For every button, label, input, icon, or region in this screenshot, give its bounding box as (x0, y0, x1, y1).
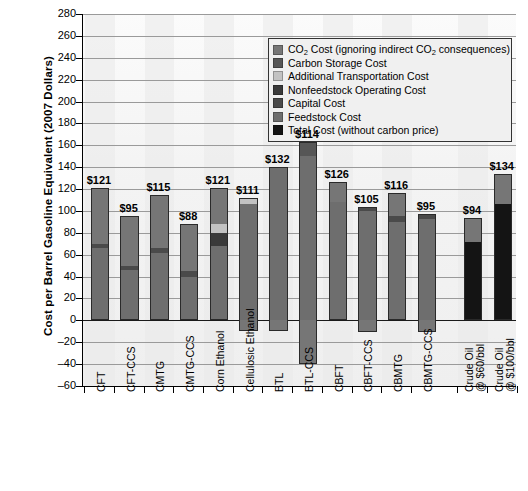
x-tick-label: CBMTG (392, 354, 404, 392)
bar-segment (358, 211, 376, 320)
x-tick-label: BTL-CCS (303, 347, 315, 392)
legend-item[interactable]: Nonfeedstock Operating Cost (273, 83, 506, 96)
x-tick-mark (411, 386, 412, 393)
x-tick-label: CBMTG-CCS (422, 328, 434, 392)
y-tick-label: –40 (36, 357, 76, 369)
legend: CO2 Cost (ignoring indirect CO2 conseque… (268, 38, 512, 142)
bar-segment (120, 270, 138, 320)
x-tick-label-line: CFT-CCS (125, 347, 137, 393)
y-tick-label: –60 (36, 379, 76, 391)
y-tick-label: 240 (36, 51, 76, 63)
x-tick-label: Cellulosic Ethanol (244, 309, 256, 392)
bar-value-label: $126 (322, 168, 352, 180)
x-tick-label-line: @ $60/bbl (475, 344, 486, 392)
bar-cmtg-ccs[interactable] (180, 14, 198, 386)
y-tick-label: 200 (36, 95, 76, 107)
bar-segment (91, 188, 109, 244)
x-tick-label: CMTG-CCS (184, 335, 196, 392)
bar-segment (91, 244, 109, 248)
y-tick-mark (76, 102, 83, 103)
x-tick-mark (233, 386, 234, 393)
y-tick-label: 0 (36, 313, 76, 325)
x-tick-label-line: CBMTG-CCS (422, 328, 434, 392)
y-tick-label: 100 (36, 204, 76, 216)
bar-segment (329, 202, 347, 320)
y-tick-mark (76, 58, 83, 59)
bar-segment (210, 233, 228, 246)
legend-item[interactable]: Carbon Storage Cost (273, 56, 506, 69)
bar-value-label: $95 (113, 202, 143, 214)
x-tick-label: CBFT-CCS (362, 340, 374, 393)
bar-cft[interactable] (91, 14, 109, 386)
x-tick-label: CBFT (333, 365, 345, 392)
bar-segment (150, 195, 168, 249)
legend-item[interactable]: Feedstock Cost (273, 110, 506, 123)
x-tick-mark (262, 386, 263, 393)
bar-value-label: $121 (84, 174, 114, 186)
y-tick-label: 60 (36, 248, 76, 260)
bar-segment-negative (358, 320, 376, 332)
bar-segment (418, 214, 436, 218)
bar-value-label: $121 (203, 174, 233, 186)
legend-swatch-icon (273, 58, 283, 68)
x-tick-label-line: Corn Ethanol (214, 331, 226, 392)
y-tick-mark (76, 80, 83, 81)
bar-segment (210, 246, 228, 320)
legend-item[interactable]: Capital Cost (273, 97, 506, 110)
x-tick-mark (84, 386, 85, 393)
bar-segment (418, 219, 436, 321)
bar-value-label: $88 (173, 210, 203, 222)
bar-segment (358, 207, 376, 211)
x-tick-mark (517, 386, 518, 393)
bar-cft-ccs[interactable] (120, 14, 138, 386)
y-tick-mark (76, 233, 83, 234)
bar-segment (150, 248, 168, 252)
y-tick-mark (76, 211, 83, 212)
bar-value-label: $94 (457, 204, 487, 216)
bar-segment (120, 216, 138, 265)
legend-swatch-icon (273, 71, 283, 81)
bar-value-label: $132 (262, 153, 292, 165)
y-tick-mark (76, 277, 83, 278)
bar-value-label: $111 (232, 184, 262, 196)
x-tick-mark (114, 386, 115, 393)
legend-swatch-icon (273, 45, 283, 55)
bar-segment (91, 248, 109, 320)
x-tick-label: BTL (273, 373, 285, 392)
x-tick-mark (322, 386, 323, 393)
y-tick-mark (76, 167, 83, 168)
bar-segment (180, 277, 198, 321)
y-tick-label: 260 (36, 29, 76, 41)
bar-segment (494, 204, 512, 320)
x-tick-label: Corn Ethanol (214, 331, 226, 392)
y-tick-label: –20 (36, 335, 76, 347)
x-tick-mark (173, 386, 174, 393)
bar-segment (239, 198, 257, 205)
legend-item[interactable]: Additional Transportation Cost (273, 70, 506, 83)
x-tick-label-line: CBFT-CCS (362, 340, 374, 393)
x-tick-label-line: CFT (95, 372, 107, 392)
bar-segment (269, 167, 287, 320)
y-tick-label: 140 (36, 160, 76, 172)
x-axis-line (82, 386, 516, 387)
y-tick-mark (76, 145, 83, 146)
legend-label: CO2 Cost (ignoring indirect CO2 conseque… (288, 43, 510, 57)
y-tick-mark (76, 255, 83, 256)
y-tick-mark (76, 189, 83, 190)
legend-swatch-icon (273, 98, 283, 108)
x-tick-label: CFT-CCS (125, 347, 137, 393)
legend-item[interactable]: CO2 Cost (ignoring indirect CO2 conseque… (273, 43, 506, 56)
bar-value-label: $115 (143, 181, 173, 193)
bar-cmtg[interactable] (150, 14, 168, 386)
y-tick-label: 20 (36, 291, 76, 303)
x-tick-mark (457, 386, 458, 393)
y-tick-mark (76, 123, 83, 124)
legend-label: Nonfeedstock Operating Cost (288, 84, 426, 96)
x-tick-mark (381, 386, 382, 393)
x-tick-label-line: CMTG (154, 361, 166, 392)
x-tick-label-line: CMTG-CCS (184, 335, 196, 392)
legend-swatch-icon (273, 112, 283, 122)
bar-segment (464, 242, 482, 321)
x-tick-mark (144, 386, 145, 393)
chart-root: Cost per Barrel Gasoline Equivalent (200… (0, 0, 528, 491)
